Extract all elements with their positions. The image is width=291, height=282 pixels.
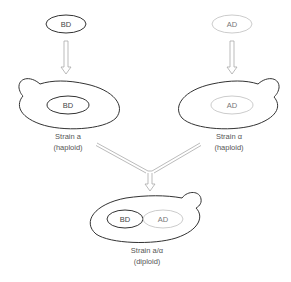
yeast-two-hybrid-mating-diagram: BD AD BD Strain a (haploid) AD Strain α … xyxy=(0,0,291,282)
strain-alpha-ad-label: AD xyxy=(227,101,238,110)
strain-a-name: Strain a xyxy=(55,132,82,141)
diploid-ad-label: AD xyxy=(158,215,169,224)
down-arrow-left-icon xyxy=(61,41,71,74)
down-arrow-right-icon xyxy=(227,41,237,74)
ad-plasmid-label: AD xyxy=(227,20,238,29)
mating-merge-arrow-icon xyxy=(96,143,201,191)
strain-alpha-cell: AD xyxy=(179,79,280,129)
strain-a-bd-label: BD xyxy=(63,101,74,110)
bd-plasmid-label: BD xyxy=(61,20,72,29)
diploid-cell: BD AD xyxy=(90,192,201,242)
strain-alpha-ploidy: (haploid) xyxy=(214,143,244,152)
bd-plasmid-top: BD xyxy=(46,15,86,33)
diploid-ploidy: (diploid) xyxy=(134,257,161,266)
diploid-name: Strain a/α xyxy=(131,246,164,255)
ad-plasmid-top: AD xyxy=(212,15,252,33)
strain-a-cell: BD xyxy=(19,79,120,129)
strain-a-ploidy: (haploid) xyxy=(53,143,83,152)
strain-alpha-name: Strain α xyxy=(216,132,243,141)
diploid-bd-label: BD xyxy=(120,215,131,224)
